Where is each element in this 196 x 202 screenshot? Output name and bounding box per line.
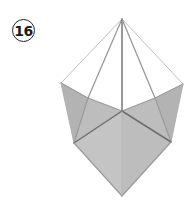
origami-diagram (0, 0, 196, 202)
crease-apex-left-mid (88, 19, 122, 98)
edge-apex-left (61, 19, 122, 83)
crease-apex-right-mid (122, 19, 155, 98)
edge-apex-right (122, 19, 183, 84)
